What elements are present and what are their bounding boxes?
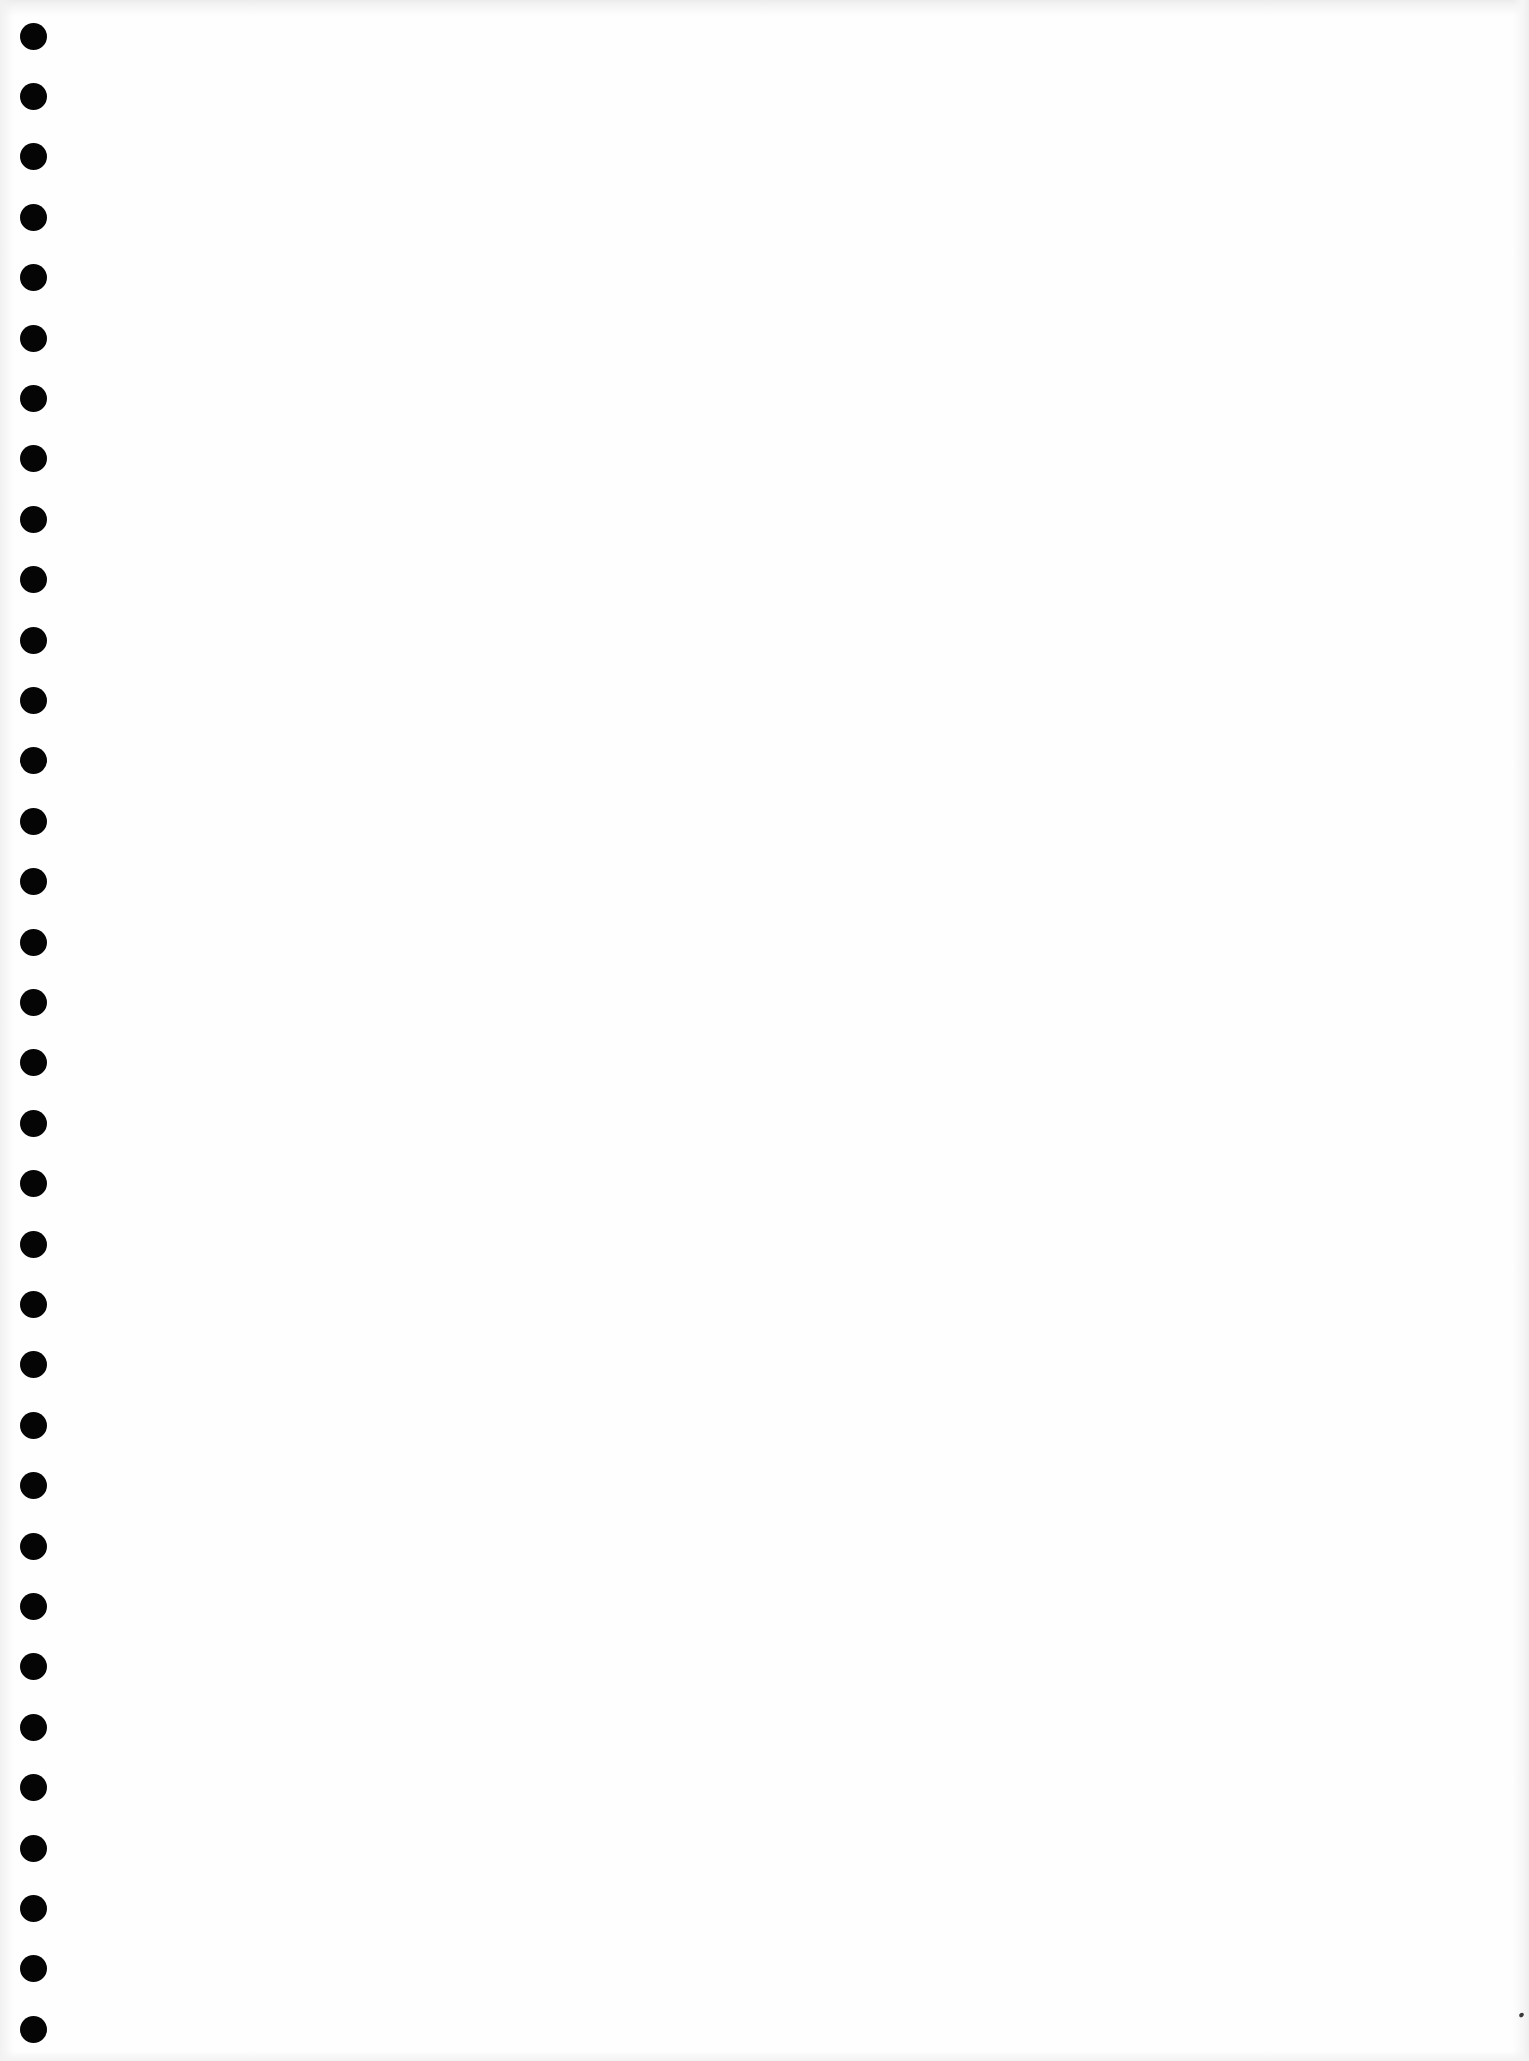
binding-hole (20, 989, 47, 1016)
binding-hole (20, 204, 47, 231)
binding-hole (20, 1472, 47, 1499)
binding-hole (20, 264, 47, 291)
binding-hole (20, 83, 47, 110)
binding-hole (20, 687, 47, 714)
binding-hole (20, 868, 47, 895)
binding-hole (20, 747, 47, 774)
binding-hole (20, 1533, 47, 1560)
binding-hole (20, 23, 47, 50)
binding-hole (20, 1412, 47, 1439)
binding-hole (20, 1049, 47, 1076)
binding-hole (20, 929, 47, 956)
scan-bottom-shadow (0, 2051, 1529, 2061)
scan-top-shadow (0, 0, 1529, 16)
binding-hole (20, 1653, 47, 1680)
binding-hole (20, 325, 47, 352)
binding-hole (20, 1170, 47, 1197)
binding-hole (20, 1593, 47, 1620)
binding-hole (20, 1714, 47, 1741)
binding-hole (20, 566, 47, 593)
binding-hole (20, 1231, 47, 1258)
binding-hole (20, 143, 47, 170)
binding-hole (20, 1351, 47, 1378)
binding-hole (20, 2016, 47, 2043)
binding-hole (20, 627, 47, 654)
binding-hole (20, 1291, 47, 1318)
binding-hole (20, 1110, 47, 1137)
binding-hole (20, 1895, 47, 1922)
binding-hole (20, 506, 47, 533)
binding-hole (20, 1835, 47, 1862)
paper-sheet (0, 0, 1529, 2061)
binding-hole (20, 808, 47, 835)
binding-hole (20, 1955, 47, 1982)
binding-hole (20, 385, 47, 412)
scan-right-shadow (1513, 0, 1529, 2061)
binding-hole (20, 445, 47, 472)
binding-hole (20, 1774, 47, 1801)
binding-holes-column (0, 0, 80, 2061)
